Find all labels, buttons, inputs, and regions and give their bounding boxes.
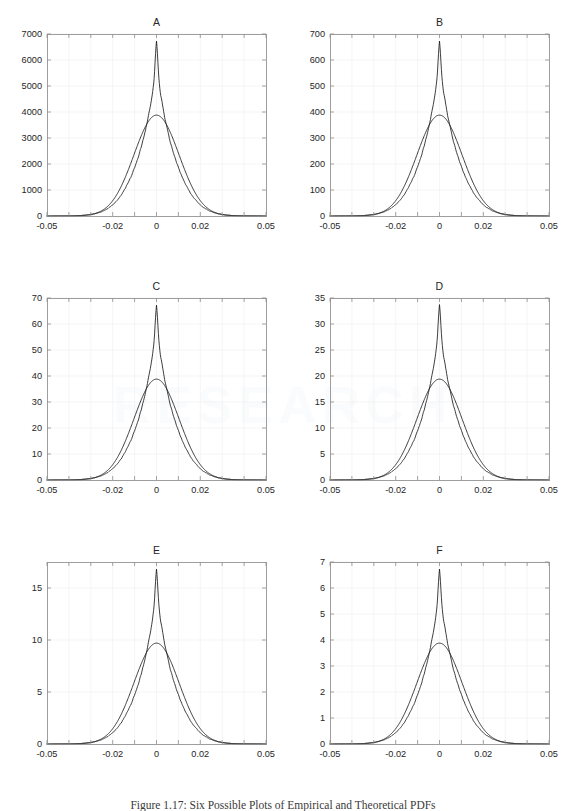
x-tick-label: 0 xyxy=(154,485,159,495)
axes-area: -0.05-0.0200.020.0501234567F xyxy=(283,528,566,791)
axes-area: -0.05-0.0200.020.05010002000300040005000… xyxy=(0,0,283,263)
y-tick-label: 600 xyxy=(310,55,325,65)
chart-panel-a: -0.05-0.0200.020.05010002000300040005000… xyxy=(0,0,283,263)
y-tick-label: 2000 xyxy=(22,159,42,169)
x-tick-label: 0.05 xyxy=(540,221,558,231)
x-tick-label: 0.05 xyxy=(540,485,558,495)
plot-canvas: -0.05-0.0200.020.05010002000300040005000… xyxy=(0,0,283,263)
gridlines xyxy=(330,298,549,480)
x-tick-label: 0.02 xyxy=(474,221,492,231)
y-tick-label: 1000 xyxy=(22,185,42,195)
x-tick-label: 0.05 xyxy=(257,485,275,495)
y-tick-label: 0 xyxy=(37,475,42,485)
y-tick-label: 30 xyxy=(315,319,325,329)
chart-panel-d: -0.05-0.0200.020.0505101520253035D xyxy=(283,264,566,527)
y-tick-label: 70 xyxy=(32,293,42,303)
y-tick-label: 35 xyxy=(315,293,325,303)
chart-panel-f: -0.05-0.0200.020.0501234567F xyxy=(283,528,566,791)
x-tick-label: -0.02 xyxy=(102,485,123,495)
y-tick-label: 10 xyxy=(315,423,325,433)
gridlines xyxy=(47,298,266,480)
chart-panel-b: -0.05-0.0200.020.05010020030040050060070… xyxy=(283,0,566,263)
panel-title: F xyxy=(330,544,549,556)
panel-title: A xyxy=(47,16,266,28)
x-tick-label: -0.05 xyxy=(320,221,341,231)
gridlines xyxy=(47,562,266,744)
x-tick-label: 0 xyxy=(437,749,442,759)
plot-canvas: -0.05-0.0200.020.05051015 xyxy=(0,528,283,791)
y-tick-label: 40 xyxy=(32,371,42,381)
panel-title: E xyxy=(47,544,266,556)
gridlines xyxy=(47,34,266,216)
y-tick-label: 0 xyxy=(37,211,42,221)
tick-labels: -0.05-0.0200.020.05010020030040050060070… xyxy=(310,29,558,231)
y-tick-label: 7000 xyxy=(22,29,42,39)
y-tick-label: 10 xyxy=(32,635,42,645)
y-tick-label: 3 xyxy=(320,661,325,671)
x-tick-label: -0.02 xyxy=(102,221,123,231)
y-tick-label: 200 xyxy=(310,159,325,169)
chart-panel-c: -0.05-0.0200.020.05010203040506070C xyxy=(0,264,283,527)
y-tick-label: 10 xyxy=(32,449,42,459)
y-tick-label: 30 xyxy=(32,397,42,407)
y-tick-label: 500 xyxy=(310,81,325,91)
axis-box xyxy=(331,299,550,481)
y-tick-label: 0 xyxy=(320,475,325,485)
y-tick-label: 5000 xyxy=(22,81,42,91)
x-tick-label: 0.05 xyxy=(540,749,558,759)
x-tick-label: -0.05 xyxy=(37,485,58,495)
axis-box xyxy=(48,299,267,481)
y-tick-label: 1 xyxy=(320,713,325,723)
axes-area: -0.05-0.0200.020.05010203040506070C xyxy=(0,264,283,527)
x-tick-label: -0.05 xyxy=(37,221,58,231)
tick-labels: -0.05-0.0200.020.05010203040506070 xyxy=(32,293,275,495)
y-tick-label: 15 xyxy=(32,583,42,593)
x-tick-label: -0.02 xyxy=(102,749,123,759)
x-tick-label: 0 xyxy=(437,485,442,495)
x-tick-label: -0.05 xyxy=(320,485,341,495)
plot-canvas: -0.05-0.0200.020.05010203040506070 xyxy=(0,264,283,527)
y-tick-label: 4000 xyxy=(22,107,42,117)
x-tick-label: 0.05 xyxy=(257,221,275,231)
axes-area: -0.05-0.0200.020.0505101520253035D xyxy=(283,264,566,527)
plot-canvas: -0.05-0.0200.020.05010020030040050060070… xyxy=(283,0,566,263)
y-tick-label: 6000 xyxy=(22,55,42,65)
x-tick-label: -0.02 xyxy=(385,221,406,231)
tick-labels: -0.05-0.0200.020.0501234567 xyxy=(320,557,558,759)
y-tick-label: 50 xyxy=(32,345,42,355)
x-tick-label: 0.02 xyxy=(474,749,492,759)
axis-box xyxy=(48,35,267,217)
x-tick-label: -0.02 xyxy=(385,485,406,495)
axis-box xyxy=(48,563,267,745)
x-tick-label: 0.02 xyxy=(191,221,209,231)
x-tick-label: 0.02 xyxy=(474,485,492,495)
figure-caption: Figure 1.17: Six Possible Plots of Empir… xyxy=(0,797,566,811)
y-tick-label: 20 xyxy=(32,423,42,433)
y-tick-label: 0 xyxy=(320,739,325,749)
y-tick-label: 0 xyxy=(37,739,42,749)
y-tick-label: 60 xyxy=(32,319,42,329)
y-tick-label: 0 xyxy=(320,211,325,221)
y-tick-label: 5 xyxy=(37,687,42,697)
x-tick-label: -0.05 xyxy=(320,749,341,759)
plot-canvas: -0.05-0.0200.020.0501234567 xyxy=(283,528,566,791)
panel-title: B xyxy=(330,16,549,28)
y-tick-label: 5 xyxy=(320,449,325,459)
y-tick-label: 7 xyxy=(320,557,325,567)
panel-grid: -0.05-0.0200.020.05010002000300040005000… xyxy=(0,0,566,790)
chart-panel-e: -0.05-0.0200.020.05051015E xyxy=(0,528,283,791)
x-tick-label: 0.02 xyxy=(191,749,209,759)
y-tick-label: 6 xyxy=(320,583,325,593)
tick-labels: -0.05-0.0200.020.0505101520253035 xyxy=(315,293,558,495)
x-tick-label: -0.02 xyxy=(385,749,406,759)
x-tick-label: 0 xyxy=(154,221,159,231)
y-tick-label: 15 xyxy=(315,397,325,407)
y-tick-label: 4 xyxy=(320,635,325,645)
gridlines xyxy=(330,562,549,744)
axis-box xyxy=(331,563,550,745)
y-tick-label: 2 xyxy=(320,687,325,697)
gridlines xyxy=(330,34,549,216)
panel-title: D xyxy=(330,280,549,292)
x-tick-label: 0 xyxy=(154,749,159,759)
